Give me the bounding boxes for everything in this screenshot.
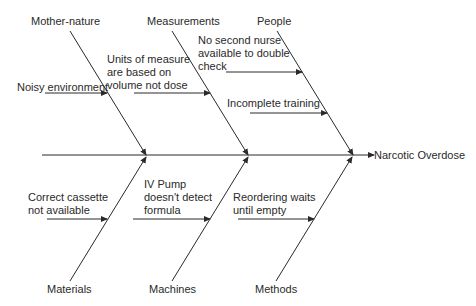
category-label-mother-nature: Mother-nature: [31, 15, 100, 28]
cause-reordering-waits: Reordering waits until empty: [233, 191, 316, 217]
cause-units-of-measure: Units of measure are based on volume not…: [107, 53, 190, 92]
cause-incomplete-training: Incomplete training: [227, 97, 320, 110]
fishbone-diagram: Narcotic Overdose Mother-nature Measurem…: [0, 0, 476, 306]
category-label-materials: Materials: [47, 283, 92, 296]
effect-label: Narcotic Overdose: [374, 149, 465, 162]
category-label-measurements: Measurements: [147, 15, 220, 28]
cause-iv-pump: IV Pump doesn't detect formula: [144, 178, 212, 217]
cause-noisy-environment: Noisy environment: [17, 81, 108, 94]
category-label-methods: Methods: [255, 283, 297, 296]
cause-correct-cassette: Correct cassette not available: [28, 191, 108, 217]
category-label-machines: Machines: [149, 283, 196, 296]
cause-no-second-nurse: No second nurse available to double chec…: [198, 34, 290, 73]
category-label-people: People: [257, 15, 291, 28]
